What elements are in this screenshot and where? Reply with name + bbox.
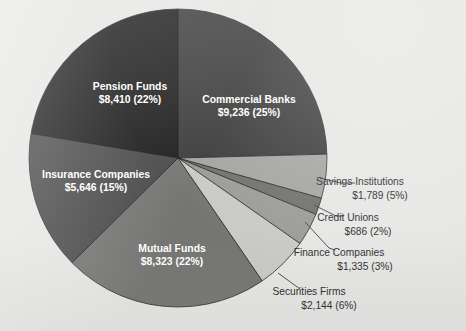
pie-slice-label-name: Mutual Funds <box>138 243 206 254</box>
pie-callout-label-name: Finance Companies <box>294 247 385 258</box>
pie-slice-label-value: $8,323 (22%) <box>141 256 203 267</box>
pie-callout-label-value: $686 (2%) <box>344 226 391 237</box>
pie-callout-label-name: Credit Unions <box>317 212 379 223</box>
pie-slice-label-value: $8,410 (22%) <box>99 94 161 105</box>
pie-slice-label-name: Commercial Banks <box>202 94 296 105</box>
pie-slice-label-value: $9,236 (25%) <box>218 107 280 118</box>
pie-callout-label-name: Securities Firms <box>272 286 345 297</box>
pie-slice-label-value: $5,646 (15%) <box>65 182 127 193</box>
pie-callout-label-value: $2,144 (6%) <box>301 300 357 311</box>
pie-callout-label-value: $1,789 (5%) <box>352 190 408 201</box>
pie-slice-label-name: Insurance Companies <box>42 169 150 180</box>
pie-callout-label-name: Savings Institutions <box>316 176 404 187</box>
chart-page: Commercial Banks$9,236 (25%)Mutual Funds… <box>0 0 466 331</box>
pie-slice[interactable] <box>178 9 327 158</box>
pie-callout-label-value: $1,335 (3%) <box>337 261 393 272</box>
pie-chart: Commercial Banks$9,236 (25%)Mutual Funds… <box>0 0 466 331</box>
pie-slice-label-name: Pension Funds <box>93 81 168 92</box>
